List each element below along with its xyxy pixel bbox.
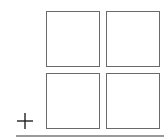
- tile-bottom-right[interactable]: [106, 73, 160, 129]
- plus-icon[interactable]: [16, 112, 34, 130]
- tile-top-left[interactable]: [46, 11, 100, 67]
- tile-top-right[interactable]: [106, 11, 160, 67]
- baseline-divider: [16, 135, 164, 137]
- tile-bottom-left[interactable]: [46, 73, 100, 129]
